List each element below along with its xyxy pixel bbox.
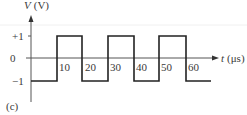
y-tick-label-zero: 0 xyxy=(10,52,16,64)
x-tick-label-30: 30 xyxy=(110,61,122,73)
x-axis-arrow-icon xyxy=(212,56,219,61)
x-tick-label-60: 60 xyxy=(188,61,200,73)
y-tick-label-minus1: −1 xyxy=(12,75,24,87)
panel-label: (c) xyxy=(6,100,19,113)
x-tick-label-40: 40 xyxy=(136,61,148,73)
square-wave-diagram: V(V) t(μs) +1 0 −1 10 20 30 40 50 60 (c) xyxy=(0,0,247,115)
x-tick-label-10: 10 xyxy=(59,61,71,73)
y-tick-label-plus1: +1 xyxy=(12,30,24,42)
x-tick-label-20: 20 xyxy=(85,61,97,73)
x-tick-label-50: 50 xyxy=(161,61,173,73)
y-axis-label: V(V) xyxy=(24,0,49,12)
x-axis-label: t(μs) xyxy=(221,52,245,65)
y-axis-arrow-icon xyxy=(29,15,34,22)
